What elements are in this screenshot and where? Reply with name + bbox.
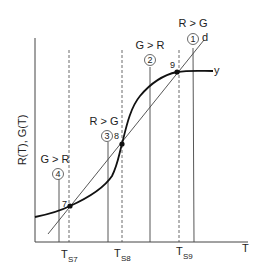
- region-relation-3: R > G: [89, 115, 118, 127]
- svg-text:T: T: [176, 245, 183, 257]
- tick-label-ts9: T S9: [176, 245, 193, 261]
- equilibrium-label-9: 9: [170, 60, 175, 70]
- equilibrium-label-7: 7: [62, 199, 67, 209]
- svg-text:4: 4: [55, 169, 60, 179]
- svg-text:2: 2: [147, 55, 152, 65]
- y-axis-label: R(T), G(T): [16, 115, 28, 166]
- x-axis-label: T: [242, 242, 249, 254]
- tick-label-ts7: T S7: [61, 248, 78, 264]
- region-marker-1: 1: [188, 34, 199, 45]
- svg-text:S8: S8: [121, 254, 131, 263]
- line-d-label: d: [202, 31, 208, 43]
- equilibrium-point-8: [119, 141, 124, 146]
- svg-text:T: T: [114, 247, 121, 259]
- region-line-1: [193, 48, 194, 242]
- region-marker-4: 4: [53, 169, 64, 180]
- tick-label-ts8: T S8: [114, 247, 131, 263]
- svg-text:S7: S7: [68, 255, 78, 264]
- region-relation-4: G > R: [40, 153, 69, 165]
- svg-text:S9: S9: [183, 252, 193, 261]
- svg-text:T: T: [61, 248, 68, 260]
- region-marker-3: 3: [102, 131, 113, 142]
- svg-text:3: 3: [104, 131, 109, 141]
- svg-text:1: 1: [190, 34, 195, 44]
- region-relation-2: G > R: [135, 39, 164, 51]
- curve-y-label: y: [214, 64, 220, 76]
- equilibrium-point-7: [67, 203, 72, 208]
- equilibrium-label-8: 8: [114, 131, 119, 141]
- region-marker-2: 2: [145, 55, 156, 66]
- stability-diagram: T R(T), G(T) T S7 T S8 T S9 1 2 3 4 R > …: [0, 0, 262, 270]
- equilibrium-point-9: [174, 69, 179, 74]
- region-relation-1: R > G: [178, 17, 207, 29]
